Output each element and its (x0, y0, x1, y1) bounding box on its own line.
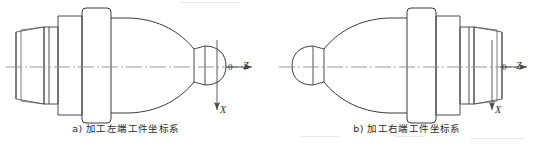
z-axis-label-b: Z (516, 60, 522, 71)
subfigure-b-geometry (292, 8, 502, 123)
origin-label-b: 0 (502, 62, 507, 72)
part-b-ogive-body (324, 18, 407, 113)
part-b-left-thread-boss (469, 27, 502, 104)
scan-artifact (395, 136, 425, 137)
x-axis-label-a: X (220, 104, 226, 115)
scan-artifact (470, 138, 525, 139)
part-a-flange (82, 8, 111, 123)
subfigure-a-geometry (6, 8, 252, 123)
scan-artifact (180, 2, 240, 3)
origin-label-a: 0 (228, 62, 233, 72)
part-a-step-1 (49, 27, 58, 104)
part-a-nose-step (194, 46, 205, 85)
figure-root: 0 Z X 0 Z X a) 加工左端工件坐标系 b) 加工右端工件坐标系 (0, 0, 533, 144)
part-b-step-1 (460, 27, 469, 104)
part-b-flange (407, 8, 436, 123)
part-a-ogive-body (111, 18, 194, 113)
part-a-left-thread-boss (16, 27, 49, 104)
part-a-step-2 (58, 16, 82, 115)
subfigure-a-caption: a) 加工左端工件坐标系 (0, 121, 252, 135)
part-b-nose-cap (292, 46, 313, 85)
z-axis-label-a: Z (243, 60, 249, 71)
scan-artifact (300, 136, 340, 137)
part-b-step-2 (436, 16, 460, 115)
x-axis-label-b: X (495, 104, 501, 115)
part-b-nose-step (313, 46, 324, 85)
part-a-nose-cap (205, 46, 226, 85)
x-axis-b (489, 40, 495, 110)
subfigure-b-caption: b) 加工右端工件坐标系 (281, 121, 533, 135)
